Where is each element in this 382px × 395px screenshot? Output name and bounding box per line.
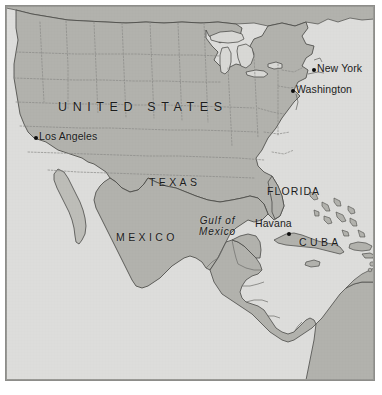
city-dot-washington (291, 89, 295, 93)
map-figure: UNITED STATES MEXICO CUBA TEXAS FLORIDA … (0, 0, 382, 395)
city-dot-new-york (312, 68, 316, 72)
lake-michigan (220, 47, 231, 74)
map-frame: UNITED STATES MEXICO CUBA TEXAS FLORIDA … (5, 5, 375, 381)
city-dot-havana (287, 232, 291, 236)
city-dot-los-angeles (34, 136, 38, 140)
map-geography (6, 6, 374, 380)
